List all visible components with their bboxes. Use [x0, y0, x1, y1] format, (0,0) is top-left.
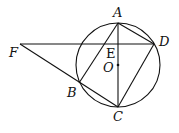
label-d: D [158, 34, 170, 49]
label-c: C [113, 109, 123, 124]
geometry-diagram: A D F E O B C [0, 0, 179, 133]
label-f: F [8, 45, 19, 60]
segment-dc [118, 44, 154, 107]
label-e: E [106, 46, 116, 61]
label-o: O [103, 60, 114, 75]
label-b: B [66, 85, 77, 100]
segment-ad [118, 23, 154, 44]
label-a: A [112, 5, 122, 20]
center-dot [117, 64, 120, 67]
